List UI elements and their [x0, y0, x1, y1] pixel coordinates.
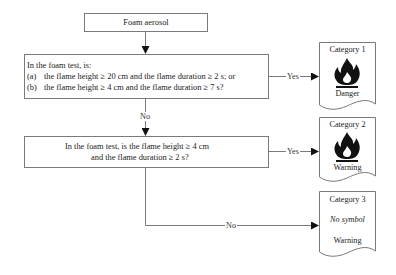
start-label: Foam aerosol	[85, 17, 207, 28]
edge-label-q1-no: No	[139, 112, 151, 121]
question-1-option-a-marker: (a)	[27, 71, 36, 82]
category-3-no-symbol: No symbol	[319, 215, 376, 224]
category-2-signal-word: Warning	[319, 163, 376, 172]
question-1-option-a: the flame height ≥ 20 cm and the flame d…	[44, 71, 235, 82]
category-3-title: Category 3	[319, 195, 376, 204]
arrow-q2-no	[146, 167, 319, 226]
question-2-line-2: and the flame duration ≥ 2 s?	[91, 152, 189, 163]
question-1-option-b: the flame height ≥ 4 cm and the flame du…	[44, 82, 223, 93]
flame-icon	[332, 131, 362, 163]
category-3-signal-word: Warning	[319, 236, 376, 245]
flame-icon	[332, 57, 362, 89]
start-box: Foam aerosol	[84, 13, 208, 32]
question-1-box: In the foam test, is: (a) the flame heig…	[24, 54, 269, 99]
edge-label-q1-yes: Yes	[286, 72, 300, 81]
category-1-title: Category 1	[319, 45, 376, 54]
question-2-box: In the foam test, is the flame height ≥ …	[24, 136, 269, 168]
edge-label-q2-no: No	[225, 221, 237, 230]
category-1-signal-word: Danger	[319, 89, 376, 98]
category-2-title: Category 2	[319, 120, 376, 129]
edge-label-q2-yes: Yes	[286, 147, 300, 156]
question-2-line-1: In the foam test, is the flame height ≥ …	[65, 141, 209, 152]
question-1-option-b-marker: (b)	[27, 82, 37, 93]
question-1-intro: In the foam test, is:	[27, 60, 91, 71]
